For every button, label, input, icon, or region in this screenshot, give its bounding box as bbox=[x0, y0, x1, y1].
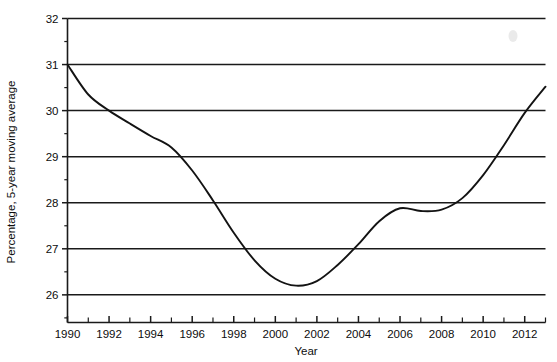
page-smudge-artifact bbox=[509, 30, 518, 42]
chart-figure: 26272829303132 1990199219941996199820002… bbox=[0, 0, 557, 362]
x-tick-label-2012: 2012 bbox=[512, 328, 538, 340]
x-tick-label-2002: 2002 bbox=[304, 328, 330, 340]
x-tick-label-1994: 1994 bbox=[138, 328, 164, 340]
x-tick-label-1992: 1992 bbox=[96, 328, 122, 340]
x-tick-label-2010: 2010 bbox=[470, 328, 496, 340]
y-axis-title: Percentage, 5-year moving average bbox=[5, 81, 17, 264]
y-tick-label-29: 29 bbox=[46, 151, 59, 163]
y-tick-label-27: 27 bbox=[46, 243, 59, 255]
x-tick-label-1996: 1996 bbox=[179, 328, 205, 340]
y-axis-ticks bbox=[62, 19, 68, 318]
x-axis-ticks bbox=[68, 316, 546, 323]
y-tick-label-26: 26 bbox=[46, 289, 59, 301]
y-tick-label-31: 31 bbox=[46, 59, 59, 71]
y-axis-tick-labels: 26272829303132 bbox=[46, 13, 59, 301]
line-chart: 26272829303132 1990199219941996199820002… bbox=[0, 0, 557, 362]
y-tick-label-30: 30 bbox=[46, 105, 59, 117]
x-tick-label-2000: 2000 bbox=[263, 328, 289, 340]
data-series-group bbox=[68, 65, 546, 286]
y-tick-label-28: 28 bbox=[46, 197, 59, 209]
x-tick-label-2006: 2006 bbox=[387, 328, 413, 340]
data-series-line-0 bbox=[68, 65, 546, 286]
x-axis-tick-labels: 1990199219941996199820002002200420062008… bbox=[55, 328, 538, 340]
x-tick-label-2008: 2008 bbox=[429, 328, 455, 340]
plot-gridlines bbox=[68, 19, 546, 295]
x-tick-label-1990: 1990 bbox=[55, 328, 81, 340]
x-axis-title: Year bbox=[294, 345, 317, 357]
x-tick-label-2004: 2004 bbox=[346, 328, 372, 340]
x-tick-label-1998: 1998 bbox=[221, 328, 247, 340]
y-tick-label-32: 32 bbox=[46, 13, 59, 25]
